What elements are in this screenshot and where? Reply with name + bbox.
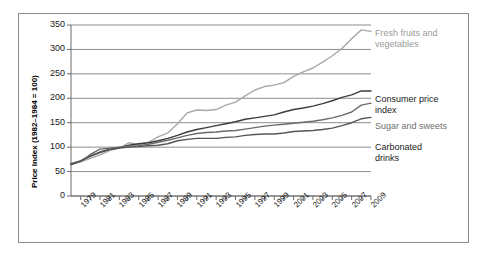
series-label-1: Consumer price index — [375, 94, 439, 116]
y-tick-label: 350 — [39, 19, 65, 29]
series-label-3: Carbonated drinks — [375, 142, 422, 164]
y-tick-label: 250 — [39, 68, 65, 78]
series-line-0 — [71, 30, 371, 164]
series-label-2: Sugar and sweets — [375, 121, 447, 132]
y-tick-label: 300 — [39, 43, 65, 53]
chart-figure: Price Index (1982–1984 = 100) 0501001502… — [0, 0, 487, 261]
y-tick-label: 50 — [39, 166, 65, 176]
series-line-1 — [71, 91, 371, 164]
y-tick-label: 100 — [39, 141, 65, 151]
chart-frame: Price Index (1982–1984 = 100) 0501001502… — [18, 13, 469, 243]
y-tick-label: 150 — [39, 117, 65, 127]
series-label-0: Fresh fruits and vegetables — [375, 28, 438, 50]
y-tick-label: 0 — [39, 190, 65, 200]
series-line-2 — [71, 103, 371, 165]
y-tick-label: 200 — [39, 92, 65, 102]
